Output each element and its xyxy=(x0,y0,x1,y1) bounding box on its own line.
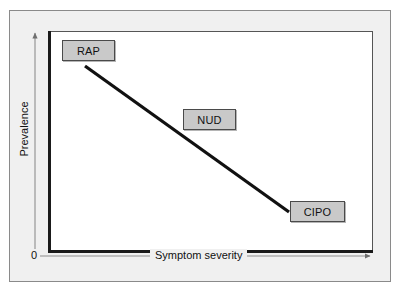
node-nud[interactable]: NUD xyxy=(183,109,236,130)
node-rap-label: RAP xyxy=(77,45,100,57)
node-nud-label: NUD xyxy=(197,114,221,126)
node-cipo[interactable]: CIPO xyxy=(290,201,345,222)
figure-root: RAP NUD CIPO Prevalence Symptom severity… xyxy=(0,0,401,293)
x-axis-label: Symptom severity xyxy=(150,249,247,261)
node-rap[interactable]: RAP xyxy=(62,40,115,61)
plot-left-axis-rail xyxy=(48,31,51,253)
y-axis-label: Prevalence xyxy=(18,91,30,167)
origin-label: 0 xyxy=(29,249,39,261)
node-cipo-label: CIPO xyxy=(304,206,332,218)
